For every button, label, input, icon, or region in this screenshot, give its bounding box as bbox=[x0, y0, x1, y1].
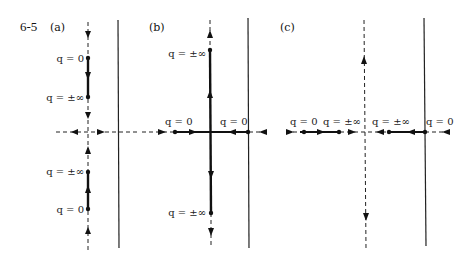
q-label: q = 0 bbox=[165, 116, 193, 127]
arrow-icon-up bbox=[85, 185, 91, 193]
zero-point-a-upper bbox=[86, 56, 90, 60]
infinity-point-c-left bbox=[337, 130, 341, 134]
arrow-icon-right bbox=[286, 129, 294, 135]
arrow-icon-left bbox=[259, 129, 267, 135]
arrow-icon-left bbox=[442, 129, 450, 135]
arrow-icon-down bbox=[85, 31, 91, 38]
arrow-icon-down bbox=[208, 171, 214, 179]
q-label: q = ±∞ bbox=[372, 116, 410, 127]
panel-b-label: (b) bbox=[149, 21, 165, 34]
q-label: q = 0 bbox=[426, 116, 454, 127]
arrow-icon-right bbox=[158, 129, 166, 135]
figure-number: 6-5 bbox=[20, 19, 37, 34]
q-label: q = 0 bbox=[57, 53, 85, 64]
panel-b: (b) q = ±∞ q = 0 q = 0 q = ±∞ bbox=[142, 18, 270, 248]
zero-point-b-right bbox=[246, 130, 250, 134]
q-label: q = ±∞ bbox=[168, 207, 206, 218]
arrow-icon-down bbox=[85, 72, 91, 80]
arrow-icon-right bbox=[348, 129, 356, 135]
arrow-icon-left bbox=[407, 129, 415, 135]
panel-c-label: (c) bbox=[280, 21, 295, 34]
arrow-icon-up bbox=[85, 146, 91, 154]
arrow-icon-left bbox=[71, 129, 78, 135]
infinity-point-b-lower bbox=[209, 211, 213, 215]
zero-point-c-left bbox=[302, 130, 306, 134]
arrow-icon-up bbox=[85, 227, 91, 234]
q-label: q = ±∞ bbox=[46, 92, 84, 103]
arrow-icon-right bbox=[189, 129, 197, 135]
arrow-icon-left bbox=[228, 129, 236, 135]
arrow-icon-down bbox=[208, 228, 214, 236]
infinity-point-b-upper bbox=[208, 48, 212, 52]
arrow-icon-right bbox=[97, 129, 105, 135]
arrow-icon-right bbox=[317, 129, 325, 135]
arrow-icon-down bbox=[363, 213, 369, 221]
infinity-point-a-upper bbox=[86, 95, 90, 99]
panel-a: (a) q = 0 q = ±∞ q = ±∞ q = 0 bbox=[46, 20, 140, 252]
asymptote-line-a bbox=[118, 20, 119, 248]
arrow-icon-up bbox=[207, 30, 213, 38]
infinity-point-a-lower bbox=[86, 170, 90, 174]
panel-c: (c) q = 0 q = ±∞ q = ±∞ q = 0 bbox=[280, 18, 454, 248]
q-label: q = 0 bbox=[220, 116, 248, 127]
q-label: q = 0 bbox=[290, 116, 318, 127]
arrow-icon-left bbox=[376, 129, 384, 135]
q-label: q = ±∞ bbox=[168, 48, 206, 59]
panel-a-label: (a) bbox=[50, 21, 65, 34]
arrow-icon-up bbox=[361, 56, 367, 64]
q-label: q = ±∞ bbox=[46, 166, 84, 177]
arrow-icon-up bbox=[207, 90, 213, 98]
q-label: q = 0 bbox=[57, 204, 85, 215]
zero-point-a-lower bbox=[86, 207, 90, 211]
q-label: q = ±∞ bbox=[323, 116, 361, 127]
arrow-icon-down bbox=[85, 112, 91, 119]
root-locus-figure: 6-5 (a) q = 0 q = ±∞ q = ±∞ q = 0 (b) bbox=[0, 0, 472, 258]
infinity-point-c-right bbox=[387, 130, 391, 134]
zero-point-b-left bbox=[173, 130, 177, 134]
zero-point-c-right bbox=[423, 130, 427, 134]
